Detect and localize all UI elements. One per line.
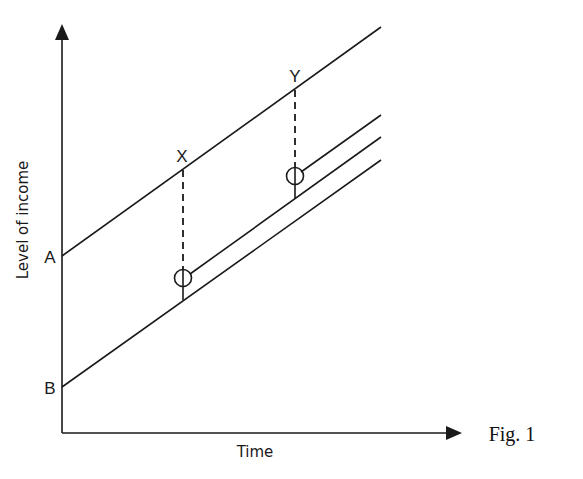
x-axis-arrow-icon — [446, 426, 462, 440]
x-axis-title: Time — [236, 443, 274, 461]
line-after-x — [190, 137, 381, 274]
line-b — [62, 160, 381, 387]
label-y: Y — [289, 67, 300, 86]
label-b: B — [44, 379, 55, 398]
label-a: A — [44, 248, 56, 267]
income-diagram: X Y A B Level of income Time Fig. 1 — [0, 0, 583, 479]
figure-caption: Fig. 1 — [489, 423, 536, 446]
line-after-y — [301, 115, 381, 172]
line-a — [62, 27, 381, 256]
label-x: X — [176, 147, 187, 166]
y-axis-arrow-icon — [55, 24, 69, 40]
y-axis-title: Level of income — [14, 161, 32, 280]
